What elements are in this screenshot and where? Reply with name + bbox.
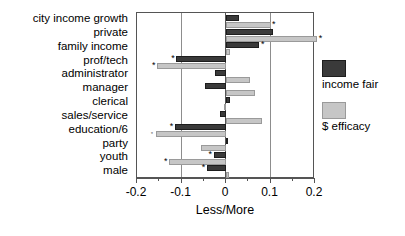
y-axis-label: administrator xyxy=(0,67,132,81)
x-tick xyxy=(181,178,182,183)
bar-income-fair xyxy=(176,56,226,62)
significance-marker: * xyxy=(209,150,213,159)
bar-income-fair xyxy=(226,42,259,48)
bar-income-fair xyxy=(220,111,226,117)
legend-label: income fair xyxy=(322,78,402,90)
y-axis-label: sales/service xyxy=(0,109,132,123)
y-axis-label: private xyxy=(0,26,132,40)
bar-row xyxy=(137,81,313,95)
x-minor-tick xyxy=(247,178,248,181)
bar-income-fair xyxy=(226,138,228,144)
bar-row xyxy=(137,136,313,150)
bar-income-fair xyxy=(214,152,226,158)
x-tick-label: -0.2 xyxy=(126,185,147,199)
bar-row: * xyxy=(137,163,313,177)
legend-label: $ efficacy xyxy=(322,120,402,132)
bar-income-fair xyxy=(205,83,226,89)
y-axis-label: male xyxy=(0,164,132,178)
x-minor-tick xyxy=(292,178,293,181)
x-tick-label: 0.1 xyxy=(261,185,278,199)
bar-row xyxy=(137,109,313,123)
y-axis-label: youth xyxy=(0,150,132,164)
legend-item: $ efficacy xyxy=(322,102,402,132)
bar-row: * xyxy=(137,13,313,27)
x-tick xyxy=(225,178,226,183)
x-axis-title: Less/More xyxy=(136,203,314,217)
bar-income-fair xyxy=(226,29,273,35)
significance-marker: * xyxy=(261,40,265,49)
significance-marker: * xyxy=(171,54,175,63)
bar-row: ** xyxy=(137,150,313,164)
x-tick xyxy=(314,178,315,183)
bar-income-fair xyxy=(215,70,226,76)
y-axis-label: manager xyxy=(0,81,132,95)
y-axis-label: education/6 xyxy=(0,123,132,137)
bar-income-fair xyxy=(226,97,230,103)
legend-item: income fair xyxy=(322,60,402,90)
bar-rows: ******◦*** xyxy=(137,13,313,177)
y-axis-label: clerical xyxy=(0,95,132,109)
y-axis-label: city income growth xyxy=(0,12,132,26)
bar-income-fair xyxy=(207,165,226,171)
bar-income-fair xyxy=(226,15,239,21)
x-tick-label: 0.2 xyxy=(306,185,323,199)
bar-row: *◦ xyxy=(137,122,313,136)
bar-row xyxy=(137,68,313,82)
bar-row: * xyxy=(137,40,313,54)
y-axis-label: family income xyxy=(0,40,132,54)
plot-area: ******◦*** xyxy=(136,12,314,178)
x-minor-tick xyxy=(203,178,204,181)
legend: income fair$ efficacy xyxy=(322,60,402,144)
legend-swatch xyxy=(322,60,346,77)
bar-row xyxy=(137,95,313,109)
legend-swatch xyxy=(322,102,346,119)
x-tick xyxy=(270,178,271,183)
bar-income-fair xyxy=(175,124,226,130)
x-tick xyxy=(136,178,137,183)
bar-chart: city income growthprivatefamily incomepr… xyxy=(0,0,405,236)
bar-row: ** xyxy=(137,54,313,68)
y-axis-label: party xyxy=(0,136,132,150)
y-axis-label: prof/tech xyxy=(0,53,132,67)
x-tick-label: 0 xyxy=(222,185,229,199)
significance-marker: * xyxy=(170,122,174,131)
significance-marker: * xyxy=(319,34,323,43)
y-axis-category-labels: city income growthprivatefamily incomepr… xyxy=(0,12,132,178)
x-minor-tick xyxy=(158,178,159,181)
bar-row: * xyxy=(137,27,313,41)
significance-marker: * xyxy=(202,163,206,172)
x-tick-label: -0.1 xyxy=(170,185,191,199)
